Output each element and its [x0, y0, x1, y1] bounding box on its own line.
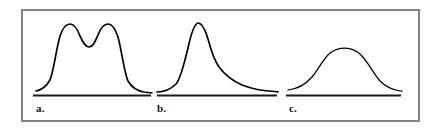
panel-label-b: b. [157, 103, 166, 114]
panel-label-c: c. [289, 103, 297, 114]
bimodal-distribution-curve [36, 24, 152, 93]
panel-label-a: a. [36, 103, 45, 114]
panel-c-group [286, 48, 402, 96]
panel-a-group [33, 24, 152, 96]
right-skewed-distribution-curve [157, 23, 278, 92]
figure-root: a. b. c. [0, 0, 440, 131]
panel-b-group [157, 23, 278, 96]
symmetric-bell-distribution-curve [288, 48, 402, 91]
distribution-curves-svg [0, 0, 440, 131]
